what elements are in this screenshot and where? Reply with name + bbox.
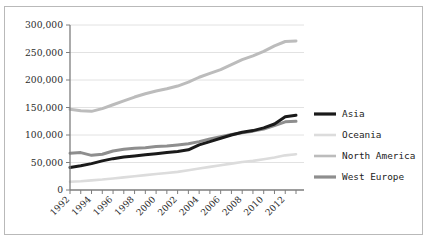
series-lines [70,41,296,182]
series-line-oceania [70,154,296,182]
y-axis-tick-labels: 050,000100,000150,000200,000250,000300,0… [25,19,63,195]
y-tick-label: 150,000 [25,102,63,113]
chart-legend: AsiaOceaniaNorth AmericaWest Europe [314,108,415,182]
series-line-north-america [70,41,296,111]
legend-label-oceania: Oceania [342,129,382,140]
y-tick-label: 100,000 [25,129,63,140]
legend-label-north-america: North America [342,150,415,161]
gridlines [70,25,304,163]
x-tick-label: 2012 [263,194,286,217]
x-tick-label: 2002 [156,194,179,217]
y-tick-label: 250,000 [25,47,63,58]
line-chart: 050,000100,000150,000200,000250,000300,0… [0,0,432,245]
x-tick-label: 1992 [48,194,71,217]
legend-label-west-europe: West Europe [342,171,404,182]
x-tick-label: 2010 [242,194,265,217]
x-tick-label: 2008 [220,194,243,217]
x-tick-label: 1998 [113,194,136,217]
legend-label-asia: Asia [342,108,365,119]
x-tick-label: 2004 [177,194,200,217]
x-axis-tick-labels: 1992199419961998200020022004200620082010… [48,194,287,217]
y-tick-label: 200,000 [25,74,63,85]
y-tick-label: 50,000 [31,157,63,168]
y-tick-label: 0 [57,184,63,195]
x-tick-label: 1996 [91,194,114,217]
y-tick-label: 300,000 [25,19,63,30]
x-tick-label: 2000 [134,194,157,217]
x-tick-label: 2006 [199,194,222,217]
x-tick-label: 1994 [70,194,93,217]
